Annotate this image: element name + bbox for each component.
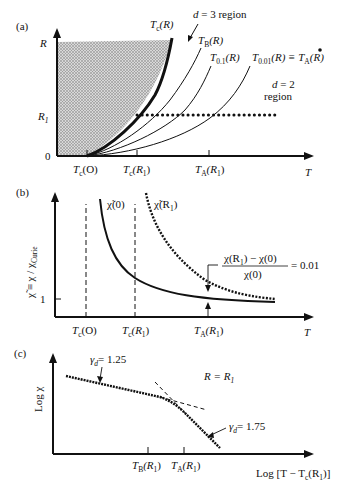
y-label-chi: χ̃ ≡ χ / χCurie <box>24 246 39 299</box>
curve-log-chi <box>66 376 220 448</box>
frac-numerator: χ(R1) − χ(0) <box>223 252 277 267</box>
d3-arrow-icon <box>188 35 193 42</box>
frac-equals: = 0.01 <box>291 259 319 271</box>
tick-tc-o: Tc(O) <box>72 324 97 339</box>
x-arrow-icon <box>304 313 314 321</box>
panel-a: (a) R R1 0 Tc(O) Tc(R1) TA(R1) T Tc(R) d… <box>16 8 324 178</box>
tick-ta-r1: TA(R1) <box>171 459 201 474</box>
label-chi-r1: χ̃(R1) <box>153 198 178 213</box>
star-marker-icon <box>318 48 322 52</box>
tick-ta-r1: TA(R1) <box>194 324 224 339</box>
curve-chi-0 <box>100 199 275 302</box>
label-gamma-125: γd= 1.25 <box>90 353 127 368</box>
d3-arrow <box>190 24 198 38</box>
panel-b: (b) 1 χ̃ ≡ χ / χCurie χ̃(0) χ̃(R1) χ(R1)… <box>16 186 319 339</box>
label-gamma-175: γd= 1.75 <box>229 420 266 435</box>
figure-canvas: (a) R R1 0 Tc(O) Tc(R1) TA(R1) T Tc(R) d… <box>0 0 340 483</box>
label-tc-r: Tc(R) <box>150 18 174 33</box>
label-r-eq-r1: R = R1 <box>203 370 234 385</box>
tick-tb-r1: TB(R1) <box>132 459 161 474</box>
panel-c-label: (c) <box>14 347 27 360</box>
frac-denominator: χ(0) <box>243 268 262 281</box>
label-t001-r: T0.01(R) ≡ TA(R) <box>252 51 324 66</box>
arrow-icon <box>207 432 214 438</box>
tick-tc-r1: Tc(R1) <box>123 163 151 178</box>
panel-a-label: (a) <box>16 20 29 33</box>
x-label-T: T <box>304 326 311 338</box>
y-tick-1: 1 <box>40 293 46 305</box>
y-arrow-icon <box>51 192 59 202</box>
label-d3-region: dd = 3 region = 3 region <box>193 8 247 20</box>
label-chi-0: χ̃(0) <box>106 198 125 211</box>
panel-c: (c) Log χ γd= 1.25 R = R1 γd= 1.75 TB(R1… <box>14 347 330 482</box>
up-arrow-icon <box>205 302 211 309</box>
label-region: region <box>264 90 293 102</box>
x-label-log: Log [T − Tc(R1)] <box>256 467 330 482</box>
y-label-zero: 0 <box>45 150 51 162</box>
y-label-log-chi: Log χ <box>32 387 44 412</box>
down-arrow-icon <box>205 285 211 292</box>
tick-tc-o: Tc(O) <box>73 163 98 178</box>
x-arrow-icon <box>304 450 314 458</box>
label-t01-r: T0.1(R) <box>210 51 240 66</box>
arrow-icon <box>97 376 103 383</box>
tick-ta-r1: TA(R1) <box>195 163 225 178</box>
x-label-T: T <box>305 166 312 178</box>
y-arrow-icon <box>49 353 57 363</box>
x-arrow-icon <box>304 152 314 160</box>
label-tb-r: TB(R) <box>198 34 224 49</box>
y-arrow-icon <box>53 28 61 38</box>
tick-tc-r1: Tc(R1) <box>122 324 150 339</box>
dashed-slope-125 <box>160 397 207 410</box>
y-label-R: R <box>39 37 47 49</box>
panel-b-label: (b) <box>16 186 29 199</box>
label-d2: d = 2 <box>272 78 295 90</box>
y-label-R1: R1 <box>37 110 48 125</box>
